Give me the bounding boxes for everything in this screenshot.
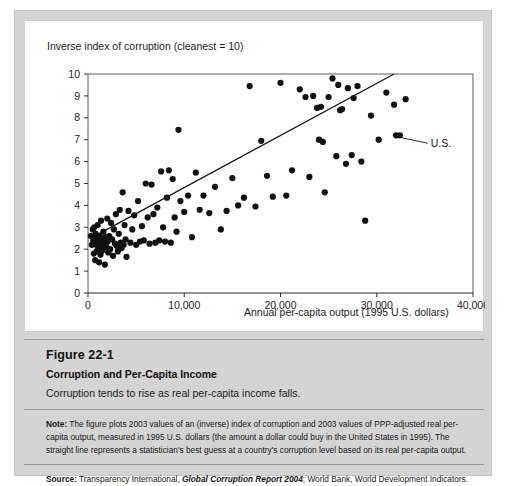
svg-text:7: 7 [74,133,80,145]
svg-text:2: 2 [74,243,80,255]
figure-source: Source: Transparency International, Glob… [46,473,474,485]
caption-divider-top [24,339,484,340]
svg-text:10,000: 10,000 [168,299,200,311]
note-label: Note: [46,419,67,429]
source-italic-title: Global Corruption Report 2004 [182,474,303,484]
figure-number: Figure 22-1 [46,348,484,362]
chart-panel: Inverse index of corruption (cleanest = … [24,20,484,332]
svg-text:10: 10 [68,68,80,80]
source-text-pre: Transparency International, [77,474,182,484]
svg-text:0: 0 [74,287,80,299]
figure-outer-frame: Inverse index of corruption (cleanest = … [14,10,492,476]
svg-text:40,000: 40,000 [457,299,485,311]
source-divider [24,464,484,465]
svg-text:0: 0 [85,299,91,311]
svg-text:U.S.: U.S. [431,137,451,149]
svg-text:8: 8 [74,111,80,123]
svg-text:3: 3 [74,221,80,233]
svg-text:9: 9 [74,90,80,102]
x-axis-title: Annual per-capita output (1995 U.S. doll… [244,306,449,318]
note-text: The figure plots 2003 values of an (inve… [46,419,466,455]
svg-text:1: 1 [74,265,80,277]
figure-title: Corruption and Per-Capita Income [46,368,484,380]
figure-subtitle: Corruption tends to rise as real per-cap… [46,387,484,399]
svg-text:4: 4 [74,199,80,211]
source-text-post: ; World Bank, World Development Indicato… [303,474,468,484]
caption-divider-bottom [24,409,484,410]
svg-text:5: 5 [74,177,80,189]
caption-block: Figure 22-1 Corruption and Per-Capita In… [24,339,484,485]
scatter-plot: 012345678910010,00020,00030,00040,000U.S… [25,21,485,333]
source-label: Source: [46,474,77,484]
svg-text:6: 6 [74,155,80,167]
figure-note: Note: The figure plots 2003 values of an… [46,418,474,457]
